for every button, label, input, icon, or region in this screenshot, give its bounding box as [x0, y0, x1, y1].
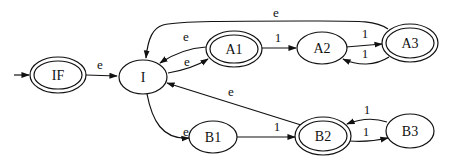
node-label-B3: B3 — [402, 124, 418, 139]
edge-B2-I — [167, 83, 301, 125]
nodes: IF I A1 A2 A3 B1 — [30, 24, 438, 155]
node-label-A1: A1 — [225, 42, 242, 57]
edge-A1-I — [160, 47, 206, 63]
node-label-IF: IF — [52, 68, 65, 83]
node-A3: A3 — [382, 24, 438, 62]
edge-label-I-B1: e — [183, 124, 189, 139]
edge-label-B2-I: e — [228, 84, 234, 99]
edge-label-A1-I: e — [183, 29, 189, 44]
edge-label-B2-B3: 1 — [363, 124, 370, 139]
edge-label-A3-I: e — [273, 5, 279, 20]
node-label-B1: B1 — [205, 130, 221, 145]
node-I: I — [119, 60, 167, 94]
edge-label-I-A1: e — [184, 54, 190, 69]
node-B1: B1 — [189, 121, 237, 153]
edge-label-A1-A2: 1 — [275, 30, 282, 45]
edge-label-A2-A3: 1 — [362, 26, 369, 41]
edge-label-B1-B2: 1 — [274, 119, 281, 134]
state-diagram: e e e 1 1 1 e e 1 e 1 1 — [0, 0, 452, 164]
node-IF: IF — [30, 57, 86, 93]
node-label-A2: A2 — [313, 41, 330, 56]
edge-label-A3-A2: 1 — [362, 46, 369, 61]
node-label-A3: A3 — [401, 36, 418, 51]
node-label-B2: B2 — [315, 129, 331, 144]
node-B2: B2 — [295, 117, 351, 155]
node-label-I: I — [141, 70, 146, 85]
edge-label-B3-B2: 1 — [364, 102, 371, 117]
edge-label-IF-I: e — [97, 57, 103, 72]
node-A2: A2 — [297, 32, 347, 64]
node-A1: A1 — [206, 31, 262, 67]
node-B3: B3 — [386, 114, 434, 148]
edge-IF-I — [86, 75, 117, 76]
